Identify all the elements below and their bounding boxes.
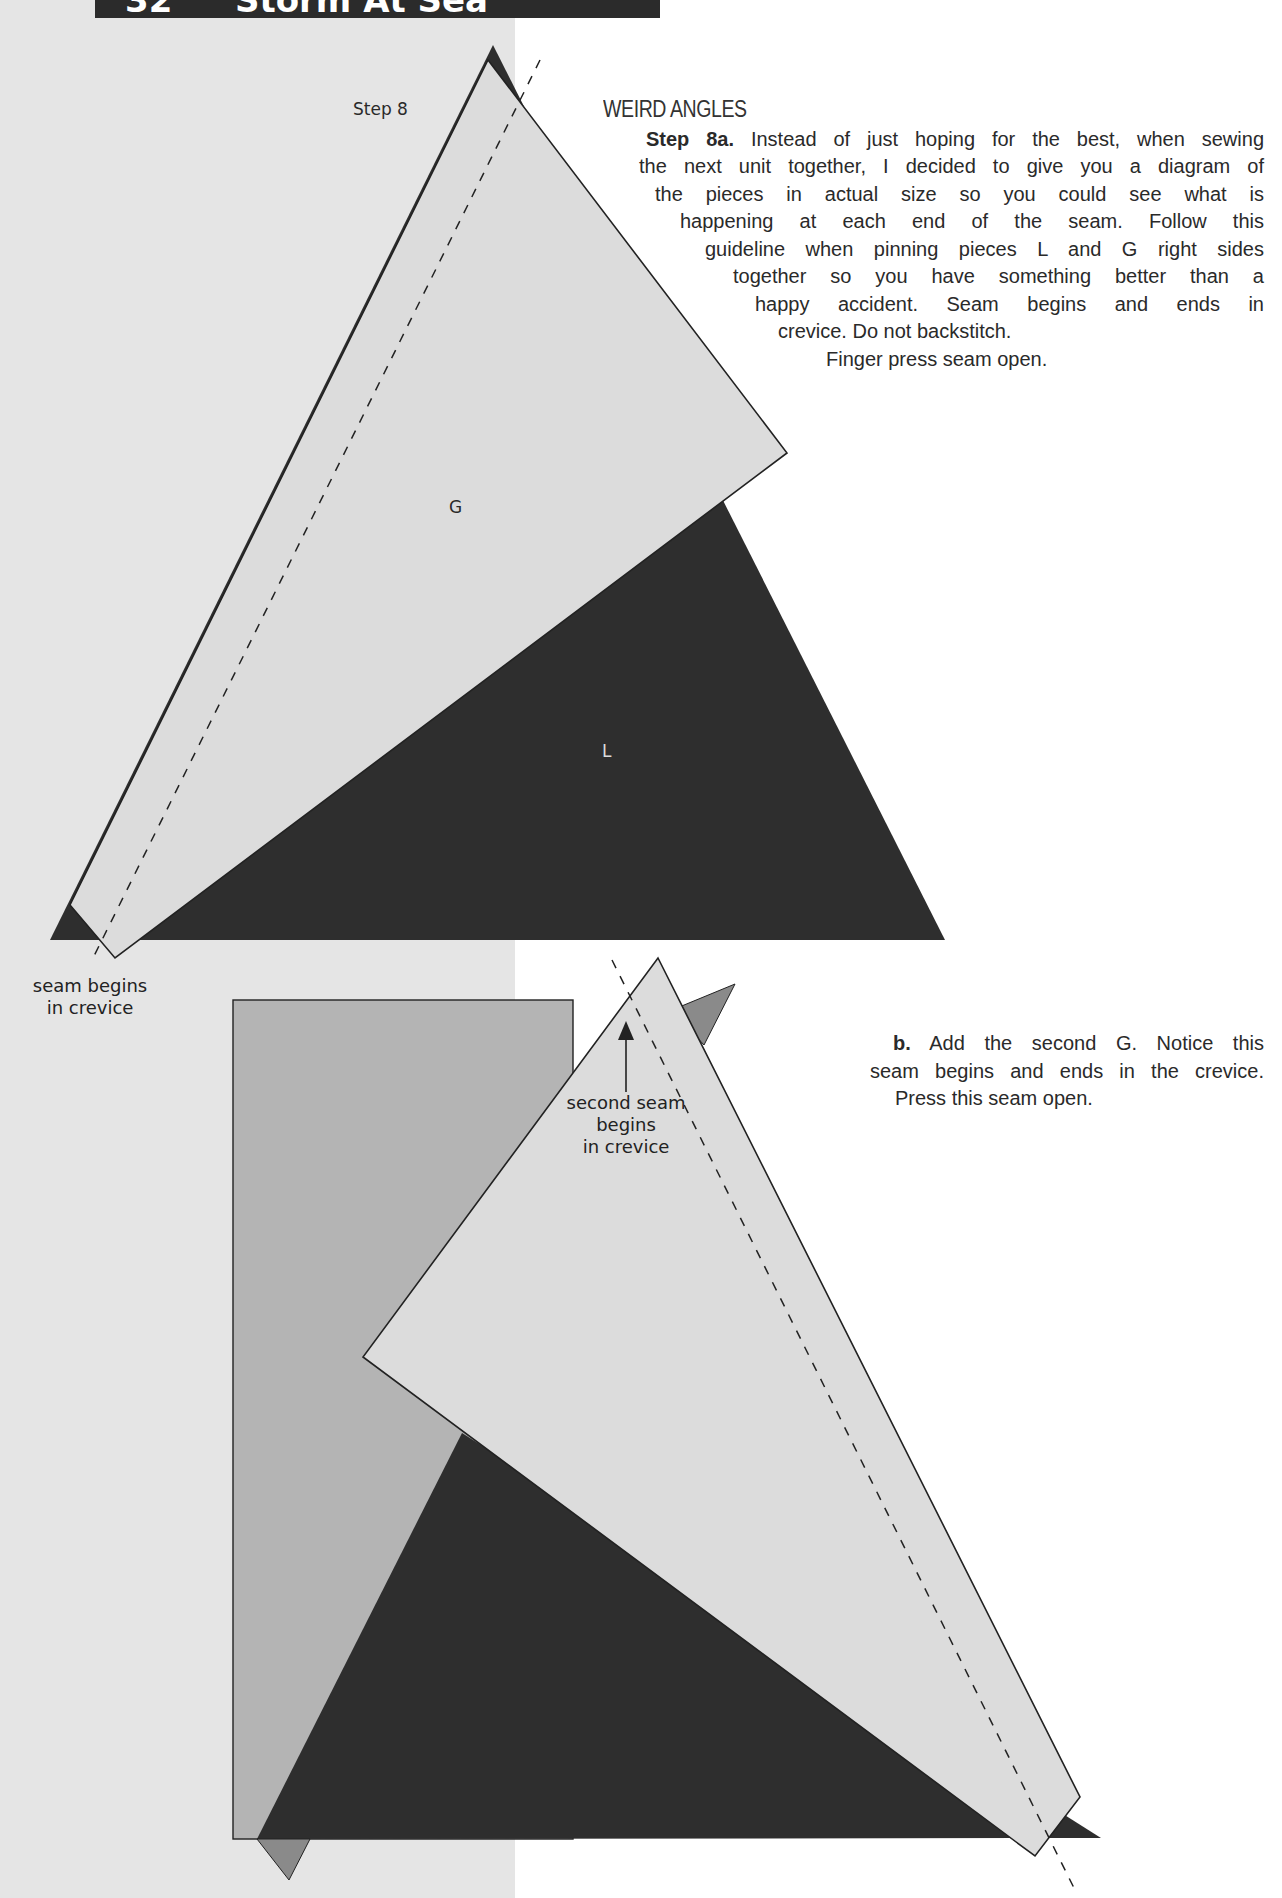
para-line: happy accident. Seam begins and ends in bbox=[755, 291, 1264, 319]
section-heading: WEIRD ANGLES bbox=[603, 96, 747, 123]
line-text: Add the second G. Notice this bbox=[911, 1032, 1264, 1054]
callout-line: in crevice bbox=[20, 997, 160, 1019]
callout-line: seam begins bbox=[20, 975, 160, 997]
para-line: happening at each end of the seam. Follo… bbox=[680, 208, 1264, 236]
line-text: Instead of just hoping for the best, whe… bbox=[734, 128, 1264, 150]
callout-line: begins bbox=[560, 1114, 692, 1136]
step-8a-lead: Step 8a. bbox=[646, 128, 734, 150]
para-line: Press this seam open. bbox=[895, 1085, 1093, 1113]
para-line: guideline when pinning pieces L and G ri… bbox=[705, 236, 1264, 264]
para-line: seam begins and ends in the crevice. bbox=[870, 1058, 1264, 1086]
step-8-label: Step 8 bbox=[353, 98, 408, 120]
para-line: Finger press seam open. bbox=[826, 346, 1047, 374]
small-triangle-bottom bbox=[257, 1839, 310, 1880]
para-line: the pieces in actual size so you could s… bbox=[655, 181, 1264, 209]
piece-L-label: L bbox=[602, 740, 611, 762]
piece-G-label: G bbox=[449, 496, 462, 518]
step-b-lead: b. bbox=[893, 1032, 911, 1054]
para-line: together so you have something better th… bbox=[733, 263, 1264, 291]
callout-line: second seam bbox=[560, 1092, 692, 1114]
para-line: Step 8a. Instead of just hoping for the … bbox=[646, 126, 1264, 154]
para-line: crevice. Do not backstitch. bbox=[778, 318, 1011, 346]
para-line: the next unit together, I decided to giv… bbox=[639, 153, 1264, 181]
para-line: b. Add the second G. Notice this bbox=[893, 1030, 1264, 1058]
seam-begins-callout: seam begins in crevice bbox=[20, 975, 160, 1019]
callout-line: in crevice bbox=[560, 1136, 692, 1158]
second-seam-callout: second seam begins in crevice bbox=[560, 1092, 692, 1158]
